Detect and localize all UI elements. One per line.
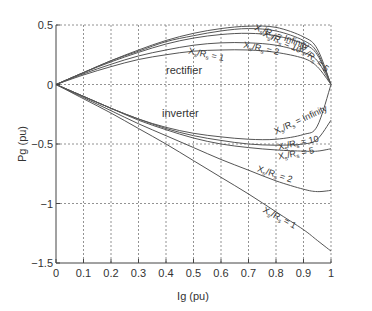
y-tick-label: −0.5	[31, 138, 53, 150]
curve-label: Xs/Rs = 2	[256, 164, 294, 186]
inverter-label: inverter	[162, 107, 199, 119]
curve-label: Xs/Rs = 1	[187, 46, 225, 64]
chart: 00.10.20.30.40.50.60.70.80.91 0.50−0.5−1…	[0, 0, 372, 311]
x-tick-label: 0.4	[158, 267, 173, 279]
y-axis-label: Pg (pu)	[16, 126, 28, 162]
curve-label: Xs/Rs = 1	[261, 205, 298, 232]
curve-labels: Xs/Rs = InfinityXs/Rs = 10Xs/Rs = 5Xs/Rs…	[187, 22, 331, 231]
x-tick-label: 0.8	[268, 267, 283, 279]
x-axis-label: Ig (pu)	[177, 290, 209, 302]
x-tick-label: 0.1	[76, 267, 91, 279]
rectifier-label: rectifier	[166, 64, 202, 76]
curve-label: Xs/Rs = Infinity	[273, 103, 330, 137]
x-tick-label: 0.2	[103, 267, 118, 279]
x-tick-label: 0.9	[296, 267, 311, 279]
x-tick-label: 0.5	[186, 267, 201, 279]
y-tick-label: 0	[47, 79, 53, 91]
x-tick-labels: 00.10.20.30.40.50.60.70.80.91	[53, 267, 334, 279]
x-tick-label: 1	[328, 267, 334, 279]
x-tick-label: 0.6	[213, 267, 228, 279]
y-tick-label: 0.5	[38, 19, 53, 31]
x-tick-label: 0.7	[241, 267, 256, 279]
x-tick-label: 0	[53, 267, 59, 279]
y-tick-labels: 0.50−0.5−1−1.5	[31, 19, 53, 269]
y-tick-label: −1.5	[31, 257, 53, 269]
y-tick-label: −1	[40, 198, 53, 210]
x-tick-label: 0.3	[131, 267, 146, 279]
